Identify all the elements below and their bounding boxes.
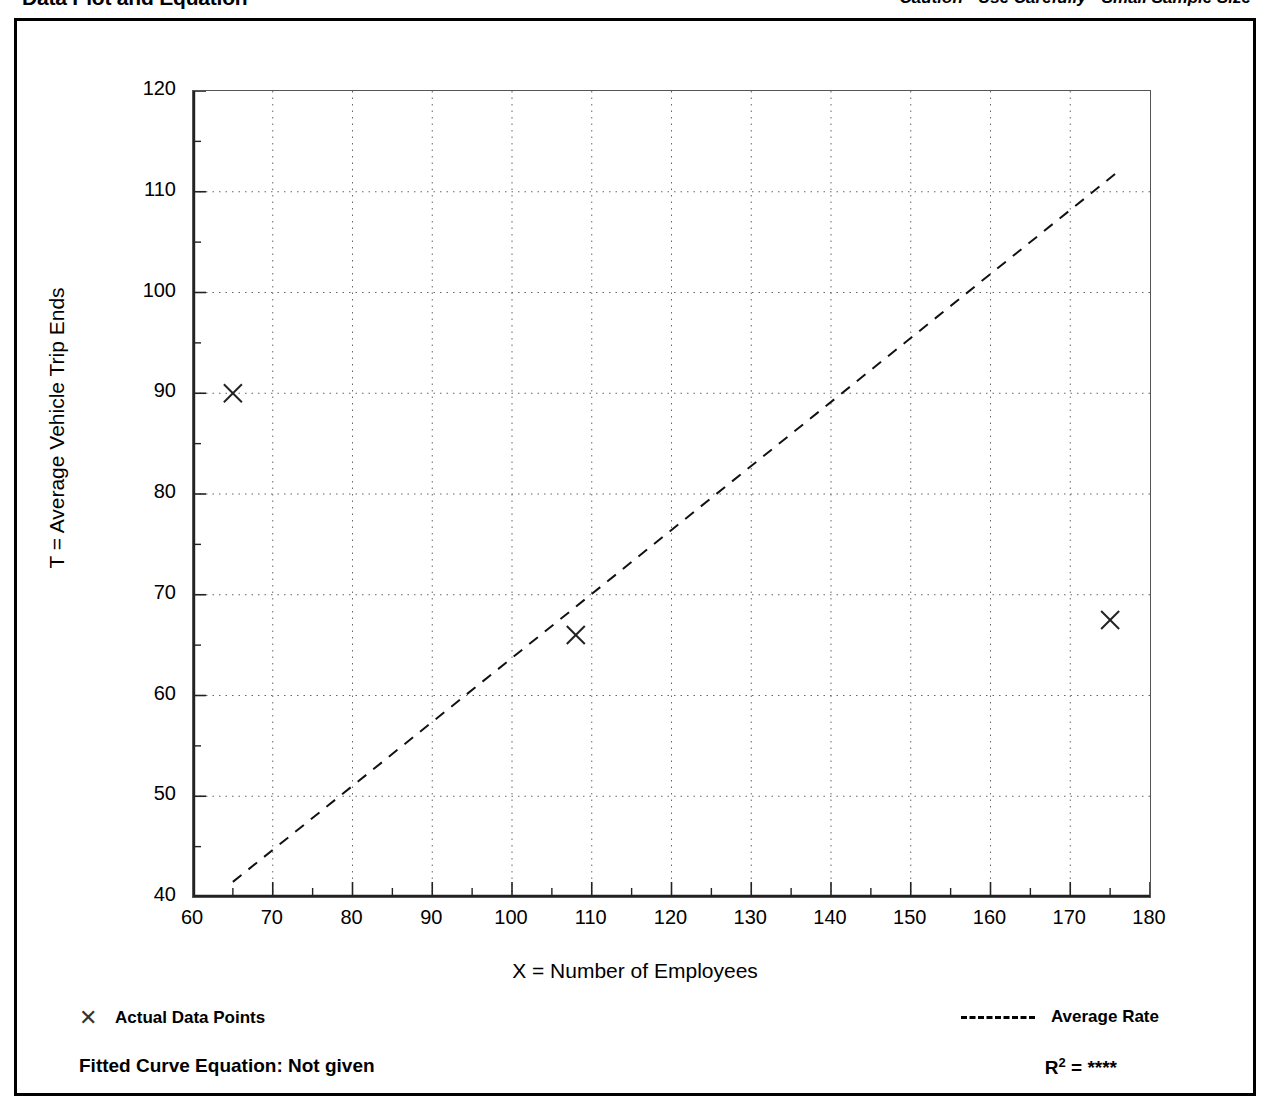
y-tick-label: 90	[116, 379, 176, 402]
x-tick-label: 80	[322, 906, 382, 929]
plot-canvas	[193, 91, 1150, 897]
y-tick-label: 40	[116, 883, 176, 906]
page-header: Data Plot and Equation Caution - Use Car…	[0, 0, 1271, 16]
x-tick-label: 130	[720, 906, 780, 929]
legend-item-actual-data-points: ✕ Actual Data Points	[79, 1007, 265, 1029]
chart-footer: Fitted Curve Equation: Not given R2 = **…	[17, 1055, 1253, 1095]
legend-item-average-rate: Average Rate	[961, 1007, 1159, 1027]
x-tick-label: 110	[561, 906, 621, 929]
x-tick-label: 100	[481, 906, 541, 929]
x-tick-label: 170	[1039, 906, 1099, 929]
x-tick-label: 120	[641, 906, 701, 929]
fitted-curve-equation: Fitted Curve Equation: Not given	[79, 1055, 375, 1077]
x-tick-label: 60	[162, 906, 222, 929]
y-tick-label: 110	[116, 178, 176, 201]
x-tick-label: 140	[800, 906, 860, 929]
caution-note: Caution - Use Carefully - Small Sample S…	[900, 0, 1251, 8]
r-squared-number: ****	[1087, 1057, 1117, 1078]
y-tick-label: 60	[116, 682, 176, 705]
x-tick-label: 90	[401, 906, 461, 929]
y-tick-label: 120	[116, 77, 176, 100]
dashed-line-icon	[961, 1016, 1035, 1019]
r-squared-equals: =	[1066, 1057, 1088, 1078]
x-tick-label: 180	[1119, 906, 1179, 929]
y-axis-title: T = Average Vehicle Trip Ends	[45, 78, 69, 778]
x-tick-label: 160	[960, 906, 1020, 929]
chart-frame: T = Average Vehicle Trip Ends X = Number…	[14, 18, 1256, 1096]
y-tick-label: 100	[116, 279, 176, 302]
page-title: Data Plot and Equation	[22, 0, 247, 10]
x-axis-title: X = Number of Employees	[17, 959, 1253, 983]
legend-label-average: Average Rate	[1051, 1007, 1159, 1027]
r-squared-symbol: R	[1045, 1057, 1059, 1078]
x-tick-label: 70	[242, 906, 302, 929]
y-tick-label: 80	[116, 480, 176, 503]
legend-label-actual: Actual Data Points	[115, 1008, 265, 1028]
y-tick-label: 70	[116, 581, 176, 604]
r-squared-exponent: 2	[1059, 1055, 1066, 1070]
chart-legend: ✕ Actual Data Points Average Rate	[17, 1007, 1253, 1041]
r-squared-value: R2 = ****	[1045, 1055, 1117, 1079]
y-tick-label: 50	[116, 782, 176, 805]
x-marker-icon: ✕	[79, 1007, 97, 1029]
x-tick-label: 150	[880, 906, 940, 929]
plot-area	[192, 90, 1151, 898]
